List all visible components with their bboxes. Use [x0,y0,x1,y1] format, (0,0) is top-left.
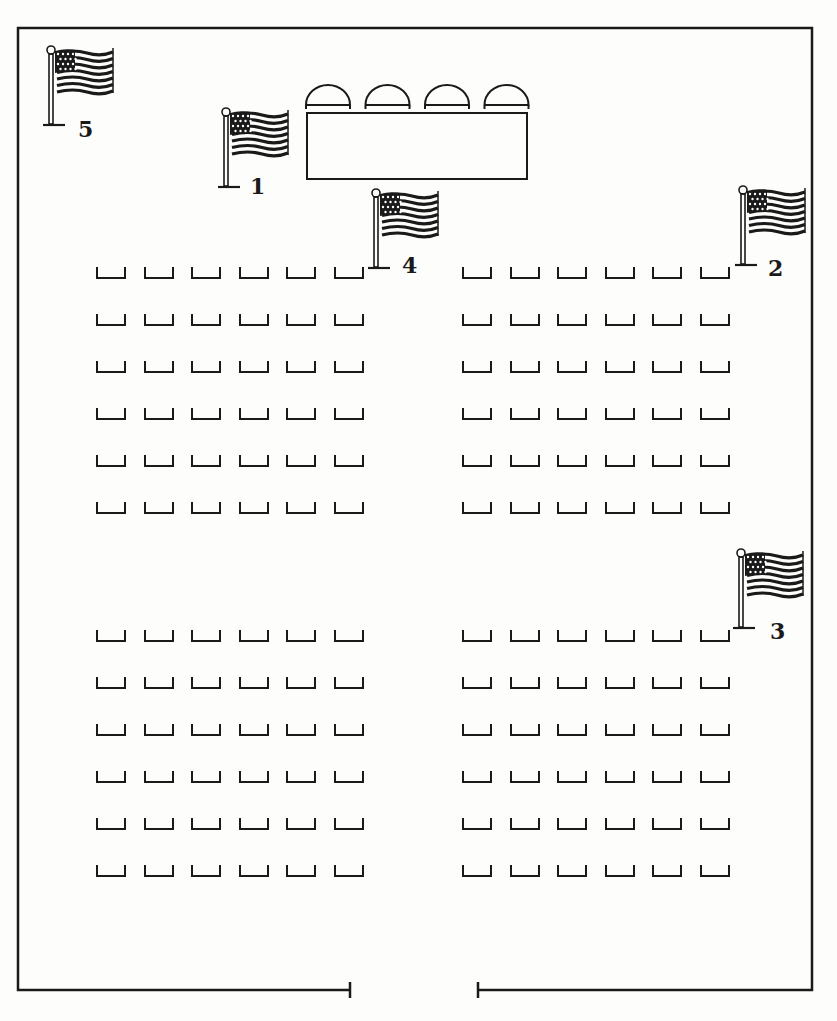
chair-icon [334,314,364,326]
chair-icon [462,455,492,467]
flagpole-finial [222,108,230,116]
chair-icon [96,408,126,420]
chair-icon [462,818,492,830]
chair-icon [191,267,221,279]
chair-icon [191,502,221,514]
chair-icon [96,818,126,830]
chair-icon [510,455,540,467]
flag-number-label: 2 [768,257,783,279]
chair-icon [510,502,540,514]
chair-icon [605,361,635,373]
chair-icon [462,677,492,689]
chair-icon [700,408,730,420]
flag-number-label: 1 [250,175,265,197]
chair-icon [239,502,269,514]
chair-icon [510,818,540,830]
chair-icon [334,455,364,467]
room-floor-plan: 1 2 3 4 5 [0,0,837,1021]
chair-icon [652,818,682,830]
chair-icon [700,724,730,736]
chair-icon [96,267,126,279]
chair-icon [652,361,682,373]
chair-icon [144,771,174,783]
chair-icon [462,865,492,877]
chair-icon [144,455,174,467]
flagpole [739,557,743,627]
chair-icon [510,408,540,420]
wall-outline [18,28,812,990]
chair-icon [700,455,730,467]
chair-icon [191,724,221,736]
flagpole [224,116,228,186]
chair-icon [239,724,269,736]
chair-icon [144,724,174,736]
chair-icon [557,630,587,642]
head-table [306,85,529,179]
chair-icon [144,314,174,326]
chair-icon [557,361,587,373]
chair-icon [144,267,174,279]
chair-icon [191,677,221,689]
chair-icon [334,408,364,420]
chair-icon [239,677,269,689]
chair-icon [144,361,174,373]
chair-icon [191,865,221,877]
head-table-chair [306,85,350,105]
chair-icon [144,677,174,689]
chair-icon [286,724,316,736]
chair-icon [191,361,221,373]
chair-icon [144,502,174,514]
flagpole [741,194,745,264]
chair-icon [557,455,587,467]
chair-icon [191,455,221,467]
chair-icon [96,677,126,689]
chair-icon [462,502,492,514]
chair-icon [286,677,316,689]
chair-icon [700,677,730,689]
flag-number-label: 4 [402,254,417,276]
flagpole-finial [372,189,380,197]
head-table-chair [485,85,529,105]
chair-icon [700,865,730,877]
chair-icon [144,818,174,830]
chair-icon [286,818,316,830]
chair-icon [334,771,364,783]
chair-icon [239,630,269,642]
head-table-chair [425,85,469,105]
chair-icon [700,361,730,373]
chair-icon [96,771,126,783]
chair-icon [334,818,364,830]
chair-icon [334,677,364,689]
chair-icon [510,630,540,642]
chair-icon [239,818,269,830]
chair-icon [462,314,492,326]
chair-icon [286,267,316,279]
chair-icon [700,267,730,279]
chair-icon [557,724,587,736]
chair-icon [96,361,126,373]
chair-icon [96,630,126,642]
chair-icon [510,724,540,736]
chair-icon [557,408,587,420]
chair-icon [605,502,635,514]
chair-icon [144,630,174,642]
chair-icon [605,455,635,467]
chair-icon [605,724,635,736]
chair-icon [700,502,730,514]
chair-icon [239,408,269,420]
chair-icon [510,314,540,326]
chair-icon [652,630,682,642]
chair-icon [605,630,635,642]
chair-icon [462,724,492,736]
head-table-rect [307,113,527,179]
chair-icon [557,267,587,279]
chair-icon [557,314,587,326]
chair-icon [239,771,269,783]
chair-icon [96,865,126,877]
chair-icon [286,771,316,783]
chair-icon [334,361,364,373]
chair-icon [605,267,635,279]
chair-icon [652,314,682,326]
chair-icon [700,771,730,783]
chair-icon [605,818,635,830]
